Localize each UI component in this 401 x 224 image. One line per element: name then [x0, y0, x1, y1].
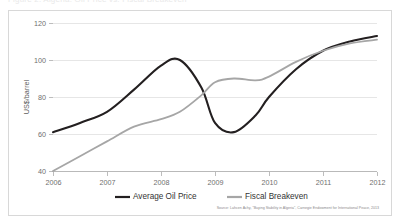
chart-plot-area: 4060801001202006200720082009201020112012… — [9, 11, 393, 217]
clipped-title-text: Figure 2. Algeria: Oil Price vs. Fiscal … — [8, 0, 187, 4]
x-tick-label: 2009 — [208, 178, 224, 187]
figure-card: 4060801001202006200720082009201020112012… — [8, 10, 392, 216]
legend-label-1: Fiscal Breakeven — [245, 192, 308, 201]
x-tick-label: 2011 — [316, 178, 331, 187]
y-tick-label: 100 — [34, 56, 46, 65]
y-tick-label: 120 — [34, 19, 46, 28]
x-tick-label: 2006 — [46, 178, 62, 187]
source-note: Source: Lahcen Achy, "Buying Stability i… — [217, 206, 379, 210]
series-line-average-oil-price — [53, 36, 377, 132]
clipped-title-strip: Figure 2. Algeria: Oil Price vs. Fiscal … — [0, 0, 401, 8]
series-line-fiscal-breakeven — [53, 40, 377, 171]
x-tick-label: 2007 — [100, 178, 116, 187]
y-tick-label: 40 — [38, 167, 46, 176]
legend-label-0: Average Oil Price — [133, 192, 197, 201]
x-tick-label: 2012 — [370, 178, 386, 187]
y-axis-title: US$/barrel — [22, 79, 31, 114]
y-tick-label: 80 — [38, 93, 46, 102]
x-tick-label: 2010 — [262, 178, 278, 187]
line-chart: 4060801001202006200720082009201020112012… — [9, 11, 393, 217]
x-tick-label: 2008 — [154, 178, 170, 187]
y-tick-label: 60 — [38, 130, 46, 139]
